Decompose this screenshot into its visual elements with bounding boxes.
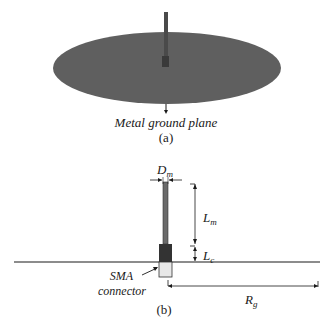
lm-arrowhead-top-icon (193, 184, 197, 189)
lm-label: Lm (202, 210, 217, 227)
monopole-b (163, 182, 168, 244)
dm-arrowhead-left-icon (158, 178, 162, 182)
lc-label: Lc (202, 248, 214, 265)
sma-label: SMA (110, 269, 134, 283)
sma-pointer-arrow-icon (153, 267, 158, 271)
antenna-diagram: Metal ground plane (a) Dm Lm Lc Rg SMA c… (0, 0, 331, 331)
connector-label: connector (98, 284, 146, 298)
monopole-a (164, 12, 168, 60)
rg-arrowhead-right-icon (314, 284, 318, 288)
rg-arrowhead-left-icon (168, 284, 172, 288)
connector-dark (159, 244, 172, 262)
caption-b: (b) (156, 302, 171, 317)
pointer-arrow-icon (164, 110, 168, 114)
connector-light (159, 262, 172, 277)
lc-arrowhead-bottom-icon (193, 257, 197, 261)
rg-label: Rg (244, 292, 258, 309)
ground-plane-label: Metal ground plane (114, 115, 218, 130)
dm-label: Dm (156, 162, 173, 179)
connector-a (162, 56, 169, 67)
lc-arrowhead-top-icon (193, 247, 197, 251)
caption-a: (a) (159, 130, 173, 145)
lm-arrowhead-bottom-icon (193, 239, 197, 244)
